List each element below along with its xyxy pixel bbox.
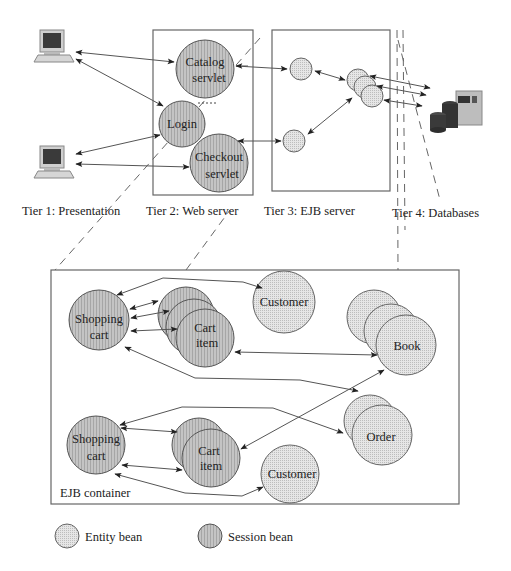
client-computer-icon (34, 30, 74, 62)
ejb-architecture-diagram: Catalog servlet Login Checkout servlet T… (0, 0, 511, 571)
cartitem-book-edge (235, 352, 377, 355)
order-label: Order (366, 430, 396, 444)
checkout-label-2: servlet (205, 167, 239, 181)
shopping-cart-1-label-1: Shopping (75, 312, 124, 326)
book-label: Book (393, 339, 421, 353)
customer-1-label: Customer (260, 295, 309, 309)
tier1-label: Tier 1: Presentation (22, 204, 121, 218)
shopping-cart-2-label-1: Shopping (72, 432, 121, 446)
cart-item-2-label-1: Cart (198, 444, 220, 458)
cart-item-1-label-2: item (196, 336, 218, 350)
cart-item-2-label-2: item (200, 459, 222, 473)
cart-item-edge-2 (122, 465, 182, 470)
ejb-db-edge (377, 86, 426, 95)
checkout-label-1: Checkout (195, 150, 243, 164)
client1-login-edge (76, 59, 163, 106)
ejb-internal-edge (315, 71, 345, 80)
cart-item-edge-2 (121, 428, 177, 432)
catalog-label-2: servlet (192, 71, 226, 85)
catalog-label-1: Catalog (186, 55, 226, 69)
ejb-entity-node (361, 85, 383, 107)
cart-item-1-label-1: Cart (194, 321, 216, 335)
ejb-server-box (272, 30, 390, 191)
container-label: EJB container (60, 486, 131, 500)
cart-item-node-2 (182, 429, 240, 487)
tier4-label: Tier 4: Databases (392, 206, 479, 220)
legend-session-icon (198, 524, 222, 548)
client2-login-edge (76, 135, 160, 154)
tier2-label: Tier 2: Web server (146, 204, 239, 218)
ejb-session-node-top (290, 58, 312, 80)
legend-session-label: Session bean (228, 530, 294, 544)
legend-entity-label: Entity bean (85, 530, 143, 544)
tier3-label: Tier 3: EJB server (264, 204, 356, 218)
shopping-cart-2-label-2: cart (87, 449, 106, 463)
shopping-cart-1-label-2: cart (90, 328, 109, 342)
zoom-guide-mid (186, 210, 230, 270)
database-icon (430, 91, 482, 133)
cart-item-edge (130, 301, 158, 309)
zoom-guide-right (397, 30, 398, 270)
catalog-servlet-node (176, 40, 234, 98)
ejb-internal-edge-2 (308, 98, 352, 134)
client-computer-icon (34, 146, 74, 178)
ejb-session-node-bottom (283, 130, 305, 152)
client1-catalog-edge (76, 52, 174, 62)
client2-checkout-edge (76, 164, 189, 167)
login-label: Login (167, 117, 198, 131)
legend-entity-icon (55, 524, 79, 548)
customer-2-label: Customer (268, 467, 317, 481)
